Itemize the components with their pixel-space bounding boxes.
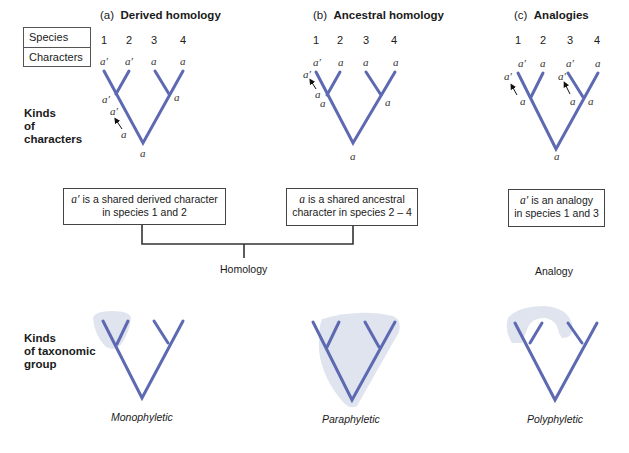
- row-label-taxonomic: Kinds of taxonomic group: [24, 332, 96, 371]
- node-character: a′: [504, 70, 512, 82]
- node-character: a: [121, 128, 127, 140]
- row-label-characters: Kinds of characters: [24, 107, 82, 146]
- panel-a-title: Derived homology: [120, 9, 220, 21]
- node-character: a: [588, 95, 594, 107]
- legend-species: Species: [24, 28, 90, 47]
- homology-connector: [142, 225, 353, 258]
- leaf-character: a′: [518, 57, 526, 69]
- root-character: a: [554, 150, 560, 162]
- node-character: a′: [102, 93, 110, 105]
- legend-characters: Characters: [24, 47, 90, 66]
- species-number: 3: [567, 34, 573, 46]
- species-number: 3: [151, 34, 157, 46]
- species-number: 4: [180, 34, 186, 46]
- tree-analogies: [518, 73, 598, 149]
- character-symbol: a′: [520, 194, 528, 206]
- panel-c-title: Analogies: [534, 9, 589, 21]
- row-label-line: characters: [24, 133, 82, 146]
- derived-character-box: a′ is a shared derived character in spec…: [63, 188, 226, 225]
- row-label-line: group: [24, 358, 96, 371]
- node-character: a: [320, 97, 326, 109]
- row-label-line: Kinds: [24, 107, 82, 120]
- leaf-character: a: [595, 57, 601, 69]
- node-character: a: [385, 96, 391, 108]
- node-character: a′: [558, 70, 566, 82]
- leaf-character: a: [151, 55, 157, 67]
- species-number: 1: [515, 34, 521, 46]
- root-character: a: [350, 150, 356, 162]
- leaf-character: a: [180, 55, 186, 67]
- species-number: 2: [337, 34, 343, 46]
- species-number: 3: [363, 34, 369, 46]
- row-label-line: of taxonomic: [24, 345, 96, 358]
- node-character: a: [174, 91, 180, 103]
- panel-a-header: (a) Derived homology: [100, 9, 221, 21]
- leaf-character: a: [363, 56, 369, 68]
- box-line-1: a′ is a shared derived character: [64, 193, 225, 206]
- leaf-character: a′: [313, 56, 321, 68]
- species-number: 4: [594, 34, 600, 46]
- node-character: a′: [303, 68, 311, 80]
- node-character: a: [570, 95, 576, 107]
- box-line-1: a is a shared ancestral: [287, 193, 417, 206]
- box-text: is a shared ancestral: [305, 193, 405, 205]
- panel-b-header: (b) Ancestral homology: [313, 9, 444, 21]
- node-character: a′: [110, 105, 118, 117]
- leaf-character: a′: [566, 57, 574, 69]
- species-number: 1: [313, 34, 319, 46]
- panel-c-header: (c) Analogies: [514, 9, 589, 21]
- tree-polyphyletic: [515, 323, 597, 400]
- panel-b-title: Ancestral homology: [333, 9, 444, 21]
- monophyletic-label: Monophyletic: [111, 411, 173, 423]
- species-number: 2: [126, 34, 132, 46]
- box-line-2: in species 1 and 2: [64, 206, 225, 219]
- tree-ancestral-homology: [316, 72, 395, 143]
- leaf-character: a: [338, 56, 344, 68]
- panel-a-letter: (a): [100, 9, 114, 21]
- leaf-character: a: [540, 57, 546, 69]
- leaf-character: a′: [125, 55, 133, 67]
- species-number: 2: [540, 34, 546, 46]
- panel-c-letter: (c): [514, 9, 527, 21]
- leaf-character: a′: [100, 55, 108, 67]
- box-line-2: character in species 2 – 4: [287, 206, 417, 219]
- paraphyletic-label: Paraphyletic: [322, 413, 380, 425]
- box-line-1: a′ is an analogy: [509, 194, 604, 207]
- root-character: a: [140, 147, 146, 159]
- node-character: a: [520, 95, 526, 107]
- panel-b-letter: (b): [313, 9, 327, 21]
- analogy-box: a′ is an analogy in species 1 and 3: [508, 189, 605, 227]
- leaf-character: a: [393, 56, 399, 68]
- box-text: is an analogy: [528, 194, 593, 206]
- box-line-2: in species 1 and 3: [509, 207, 604, 220]
- legend-table: Species Characters: [23, 27, 91, 67]
- row-label-line: Kinds: [24, 332, 96, 345]
- species-number: 1: [101, 34, 107, 46]
- analogy-caption: Analogy: [535, 265, 573, 277]
- species-number: 4: [391, 34, 397, 46]
- ancestral-character-box: a is a shared ancestral character in spe…: [286, 188, 418, 226]
- homology-caption: Homology: [220, 263, 267, 275]
- polyphyletic-label: Polyphyletic: [527, 413, 583, 425]
- row-label-line: of: [24, 120, 82, 133]
- box-text: is a shared derived character: [79, 193, 217, 205]
